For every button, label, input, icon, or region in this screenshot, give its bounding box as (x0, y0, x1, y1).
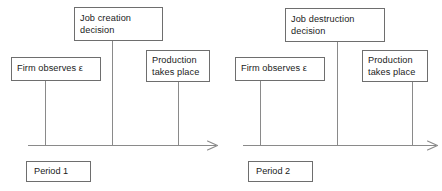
event-box-firm-observes-epsilon: Firm observes ε (235, 57, 325, 81)
period-label-text: Period 1 (34, 166, 68, 177)
event-label-line: takes place (152, 66, 204, 78)
event-label-line: Firm observes ε (17, 63, 95, 74)
period-label-box: Period 2 (248, 161, 313, 182)
period-label-text: Period 2 (256, 166, 290, 177)
event-label-line: decision (291, 25, 379, 37)
stem-job-creation-decision (112, 41, 113, 146)
period-label-box: Period 1 (26, 161, 91, 182)
stem-firm-observes-epsilon (45, 81, 46, 146)
event-box-job-destruction-decision: Job destruction decision (285, 8, 385, 42)
axis-arrowhead-icon (207, 140, 219, 151)
event-label-line: Job creation (80, 12, 157, 24)
period-2-panel: Firm observes ε Job destruction decision… (221, 0, 442, 191)
event-label-line: takes place (368, 66, 422, 78)
event-label-line: Firm observes ε (241, 63, 319, 74)
stem-production-takes-place (412, 82, 413, 146)
event-label-line: Job destruction (291, 13, 379, 25)
event-label-line: decision (80, 24, 157, 36)
period-1-panel: Firm observes ε Job creation decision Pr… (0, 0, 221, 191)
axis-arrowhead-icon (427, 140, 439, 151)
event-box-production-takes-place: Production takes place (362, 50, 428, 82)
stem-firm-observes-epsilon (260, 81, 261, 146)
event-box-firm-observes-epsilon: Firm observes ε (11, 57, 101, 81)
stem-production-takes-place (178, 82, 179, 146)
event-box-production-takes-place: Production takes place (146, 50, 210, 82)
event-box-job-creation-decision: Job creation decision (74, 7, 163, 41)
timeline-axis (28, 145, 216, 146)
event-label-line: Production (152, 54, 204, 66)
timeline-axis (243, 145, 436, 146)
timeline-diagram: Firm observes ε Job creation decision Pr… (0, 0, 442, 191)
stem-job-destruction-decision (337, 42, 338, 146)
event-label-line: Production (368, 54, 422, 66)
